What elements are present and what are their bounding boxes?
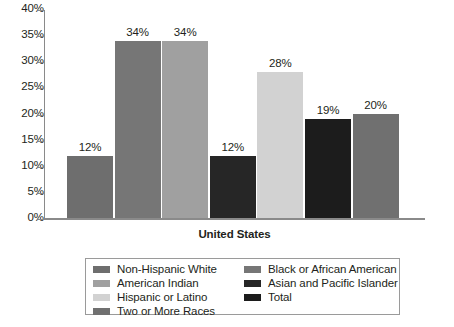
- bar: [210, 156, 256, 218]
- legend-entry-label: Two or More Races: [117, 305, 215, 318]
- legend-entry: Two or More Races: [93, 305, 217, 318]
- y-axis-tick-label: 10%: [8, 159, 44, 171]
- legend-color-swatch: [244, 280, 261, 287]
- legend-column-left: Non-Hispanic WhiteAmerican IndianHispani…: [93, 263, 217, 319]
- legend-entry: American Indian: [93, 277, 217, 290]
- chart-legend: Non-Hispanic WhiteAmerican IndianHispani…: [85, 258, 400, 315]
- legend-entry-label: Black or African American: [268, 263, 397, 276]
- bar: [115, 41, 161, 218]
- legend-color-swatch: [244, 266, 261, 273]
- legend-color-swatch: [93, 280, 110, 287]
- bar-value-label: 34%: [162, 26, 208, 38]
- bars-layer: 12%34%34%12%28%19%20%: [44, 10, 425, 218]
- legend-entry-label: Asian and Pacific Islander: [268, 277, 398, 290]
- legend-entry: Total: [244, 291, 398, 304]
- bar-value-label: 28%: [257, 57, 303, 69]
- y-axis-tick-label: 40%: [8, 2, 44, 14]
- y-axis-tick-label: 30%: [8, 54, 44, 66]
- legend-color-swatch: [93, 266, 110, 273]
- bar-chart: 40%35%30%25%20%15%10%5%0% 12%34%34%12%28…: [0, 0, 454, 327]
- bar-value-label: 19%: [305, 104, 351, 116]
- bar: [305, 119, 351, 218]
- legend-color-swatch: [93, 308, 110, 315]
- legend-entry-label: Non-Hispanic White: [117, 263, 217, 276]
- y-axis-tick-label: 20%: [8, 107, 44, 119]
- y-axis-tick-label: 15%: [8, 133, 44, 145]
- y-axis-tick-label: 35%: [8, 28, 44, 40]
- legend-entry: Non-Hispanic White: [93, 263, 217, 276]
- y-axis-tick-label: 25%: [8, 80, 44, 92]
- legend-entry: Black or African American: [244, 263, 398, 276]
- legend-entry-label: Total: [268, 291, 292, 304]
- legend-color-swatch: [244, 294, 261, 301]
- y-axis-tick-label: 0%: [8, 211, 44, 223]
- legend-column-right: Black or African AmericanAsian and Pacif…: [244, 263, 398, 305]
- bar-value-label: 12%: [210, 141, 256, 153]
- bar: [353, 114, 399, 218]
- bar: [67, 156, 113, 218]
- legend-color-swatch: [93, 294, 110, 301]
- bar: [162, 41, 208, 218]
- y-axis-tick-label: 5%: [8, 185, 44, 197]
- bar-value-label: 34%: [115, 26, 161, 38]
- x-axis-title: United States: [44, 228, 425, 240]
- plot-area: 12%34%34%12%28%19%20%: [44, 10, 425, 219]
- legend-entry-label: American Indian: [117, 277, 199, 290]
- x-axis-baseline: [44, 218, 425, 220]
- legend-entry-label: Hispanic or Latino: [117, 291, 207, 304]
- legend-entry: Hispanic or Latino: [93, 291, 217, 304]
- bar: [257, 72, 303, 218]
- bar-value-label: 12%: [67, 141, 113, 153]
- legend-entry: Asian and Pacific Islander: [244, 277, 398, 290]
- bar-value-label: 20%: [353, 99, 399, 111]
